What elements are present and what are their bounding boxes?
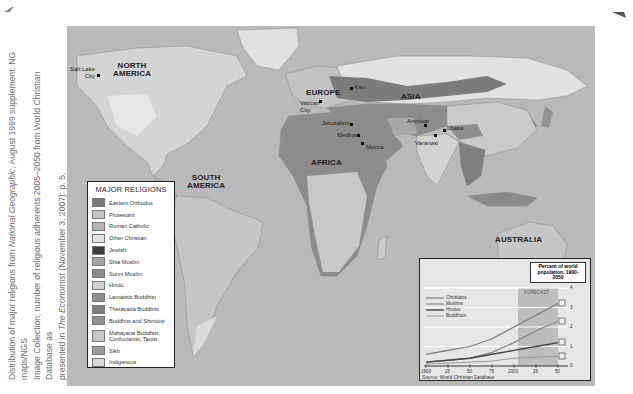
legend-item: Lamaistic Buddhist [92, 291, 170, 303]
chart-title: Percent of world population, 1900-2050 [530, 262, 586, 283]
legend-swatch [92, 257, 105, 266]
source-caption: Distribution of major religions from Nat… [6, 35, 68, 380]
legend-label: Other Christian [109, 235, 147, 241]
legend-buddhists: Buddhists [446, 313, 466, 318]
x-tick: 50 [467, 369, 472, 374]
legend-item: Buddhist and Shintoist [92, 315, 170, 327]
legend-swatch [92, 269, 105, 278]
legend-item: Sunni Muslim [92, 268, 170, 280]
legend-muslims: Muslims [446, 301, 463, 306]
caption-text: Image Collection; number of religious ad… [32, 72, 54, 380]
x-tick: 50 [555, 369, 560, 374]
city-dot [350, 87, 353, 90]
legend-label: Mahayana Buddhist, Confucianist, Taoist [109, 330, 170, 342]
city-vatican: Vatican City [300, 100, 320, 113]
chart-source: Source: World Christian Database [422, 375, 494, 380]
legend-swatch [92, 234, 105, 243]
city-lhasa: Lhasa [447, 125, 463, 132]
legend-label: Buddhist and Shintoist [109, 318, 165, 324]
legend-label: Sunni Muslim [109, 271, 143, 277]
page-curl-mark [2, 4, 16, 14]
legend-label: Jewish [109, 247, 126, 253]
city-kiev: Kiev [354, 84, 366, 91]
x-tick: 2000 [508, 369, 518, 374]
city-dot [424, 124, 427, 127]
legend-label: Protestant [109, 212, 135, 218]
legend-swatch [92, 246, 105, 255]
legend-swatch [92, 305, 105, 314]
label-africa: AFRICA [311, 159, 342, 167]
legend-item: Jewish [92, 244, 170, 256]
caption-italic: The Economist [57, 273, 67, 330]
city-mecca: Mecca [366, 144, 384, 151]
caption-italic: National Geographic [7, 169, 17, 247]
religions-legend: MAJOR RELIGIONS Eastern Orthodox Protest… [87, 181, 175, 368]
legend-label: Theravada Buddhist [109, 306, 159, 312]
legend-item: Mahayana Buddhist, Confucianist, Taoist [92, 327, 170, 345]
legend-label: Indigenous [109, 359, 136, 365]
y-tick: 1 [570, 344, 573, 349]
label-south-america: SOUTH AMERICA [187, 174, 225, 190]
label-europe: EUROPE [306, 89, 340, 97]
y-tick: 0 [570, 363, 573, 368]
y-tick: 4 [570, 285, 573, 290]
caption-text: presented in [57, 330, 67, 380]
legend-item: Eastern Orthodox [92, 197, 170, 209]
city-dot [319, 100, 322, 103]
legend-item: Shia Muslim [92, 256, 170, 268]
y-tick: 3 [570, 305, 573, 310]
city-dot [361, 142, 364, 145]
legend-label: Lamaistic Buddhist [109, 294, 156, 300]
legend-item: Other Christian [92, 232, 170, 244]
forecast-label: FORECAST [524, 290, 549, 295]
legend-label: Hindu [109, 282, 124, 288]
legend-item: Hindu [92, 280, 170, 292]
city-dot [357, 134, 360, 137]
x-tick: 25 [533, 369, 538, 374]
page-curl-mark [612, 10, 628, 20]
legend-swatch [92, 316, 105, 325]
legend-label: Eastern Orthodox [109, 200, 153, 206]
city-salt-lake-city: Salt Lake City [67, 66, 95, 79]
y-tick: 2 [570, 324, 573, 329]
population-chart-inset: Percent of world population, 1900-2050 F… [419, 258, 591, 381]
x-tick: 75 [489, 369, 494, 374]
caption-text: (November 3, 2007): p. 5. [57, 173, 67, 273]
city-varanasi: Varanasi [415, 140, 438, 147]
legend-item: Protestant [92, 209, 170, 221]
legend-swatch [92, 293, 105, 302]
legend-swatch [92, 346, 105, 355]
world-religions-map: NORTH AMERICA SOUTH AMERICA EUROPE ASIA … [67, 26, 595, 386]
legend-hindus: Hindus [446, 307, 460, 312]
label-north-america: NORTH AMERICA [113, 62, 151, 78]
legend-item: Indigenous [92, 357, 170, 369]
caption-text: Distribution of major religions from [7, 247, 17, 380]
city-dot [350, 123, 353, 126]
city-dot [97, 74, 100, 77]
legend-label: Sikh [109, 348, 120, 354]
legend-swatch [92, 330, 105, 342]
legend-swatch [92, 358, 105, 367]
label-australia: AUSTRALIA [495, 236, 542, 244]
city-dot [434, 134, 437, 137]
city-jerusalem: Jerusalem [322, 120, 350, 127]
x-tick: 1900 [421, 369, 431, 374]
legend-christians: Christians [446, 295, 466, 300]
city-dot [443, 129, 446, 132]
x-tick: 25 [445, 369, 450, 374]
legend-swatch [92, 222, 105, 231]
legend-swatch [92, 210, 105, 219]
legend-label: Shia Muslim [109, 259, 139, 265]
city-medina: Medina [337, 132, 357, 139]
legend-title: MAJOR RELIGIONS [92, 185, 170, 194]
label-asia: ASIA [401, 93, 421, 101]
legend-swatch [92, 198, 105, 207]
legend-swatch [92, 281, 105, 290]
legend-label: Roman Catholic [109, 223, 149, 229]
legend-item: Roman Catholic [92, 221, 170, 233]
legend-item: Theravada Buddhist [92, 303, 170, 315]
legend-item: Sikh [92, 345, 170, 357]
